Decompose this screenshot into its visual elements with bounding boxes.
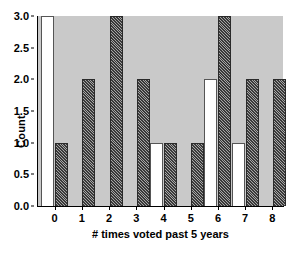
x-tick-label: 4 <box>160 212 166 224</box>
x-tick-label: 1 <box>79 212 85 224</box>
y-tick-mark <box>31 142 34 143</box>
bar-hatched-series-cat-5 <box>191 143 204 206</box>
x-tick-mark <box>272 207 273 210</box>
x-tick-label: 7 <box>242 212 248 224</box>
y-tick-mark <box>31 47 34 48</box>
y-tick-label: 2.5 <box>14 42 29 54</box>
bar-hatched-series-cat-4 <box>164 143 177 206</box>
y-tick-mark <box>31 174 34 175</box>
bar-hatched-series-cat-3 <box>137 79 150 206</box>
bar-hatched-series-cat-7 <box>246 79 259 206</box>
y-tick-label: 1.0 <box>14 137 29 149</box>
x-tick-mark <box>109 207 110 210</box>
x-tick-label: 2 <box>106 212 112 224</box>
y-tick-mark <box>31 79 34 80</box>
y-tick-label: 1.5 <box>14 105 29 117</box>
y-axis-tick-labels: 0.00.51.01.52.02.53.0 <box>0 0 34 263</box>
bar-hatched-series-cat-0 <box>55 143 68 206</box>
x-tick-label: 8 <box>269 212 275 224</box>
y-tick-mark <box>31 16 34 17</box>
x-tick-label: 0 <box>52 212 58 224</box>
y-tick-mark <box>31 111 34 112</box>
bar-hatched-series-cat-6 <box>218 16 231 206</box>
y-tick-label: 0.5 <box>14 168 29 180</box>
y-tick-label: 0.0 <box>14 200 29 212</box>
bar-hatched-series-cat-2 <box>110 16 123 206</box>
bar-hatched-series-cat-8 <box>273 79 286 206</box>
x-tick-mark <box>164 207 165 210</box>
x-axis-tick-labels: 012345678 <box>38 207 283 227</box>
x-tick-mark <box>82 207 83 210</box>
x-tick-mark <box>245 207 246 210</box>
x-tick-mark <box>191 207 192 210</box>
bar-white-series-cat-6 <box>204 79 217 206</box>
bar-chart-figure: Count 0.00.51.01.52.02.53.0 012345678 # … <box>0 0 306 263</box>
bar-white-series-cat-4 <box>150 143 163 206</box>
y-tick-label: 3.0 <box>14 10 29 22</box>
x-tick-label: 5 <box>188 212 194 224</box>
bar-white-series-cat-7 <box>232 143 245 206</box>
y-tick-mark <box>31 206 34 207</box>
x-tick-mark <box>55 207 56 210</box>
bar-group <box>38 16 283 206</box>
x-tick-label: 3 <box>133 212 139 224</box>
x-tick-label: 6 <box>215 212 221 224</box>
x-axis-title: # times voted past 5 years <box>38 228 283 240</box>
bar-hatched-series-cat-1 <box>82 79 95 206</box>
bar-white-series-cat-0 <box>41 16 54 206</box>
plot-area <box>38 16 283 206</box>
y-tick-label: 2.0 <box>14 73 29 85</box>
x-tick-mark <box>218 207 219 210</box>
x-tick-mark <box>136 207 137 210</box>
